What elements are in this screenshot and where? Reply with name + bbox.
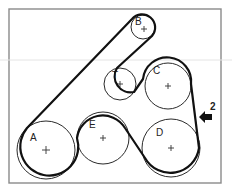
pulley-e-label: E <box>89 119 96 130</box>
pulley-c-label: C <box>153 65 160 76</box>
belt-routing-diagram: A B T C D E 2 <box>0 0 232 190</box>
pulley-a-label: A <box>30 132 37 143</box>
pulley-b-label: B <box>135 16 142 27</box>
callout-label: 2 <box>210 101 216 112</box>
pulley-d-label: D <box>156 127 163 138</box>
